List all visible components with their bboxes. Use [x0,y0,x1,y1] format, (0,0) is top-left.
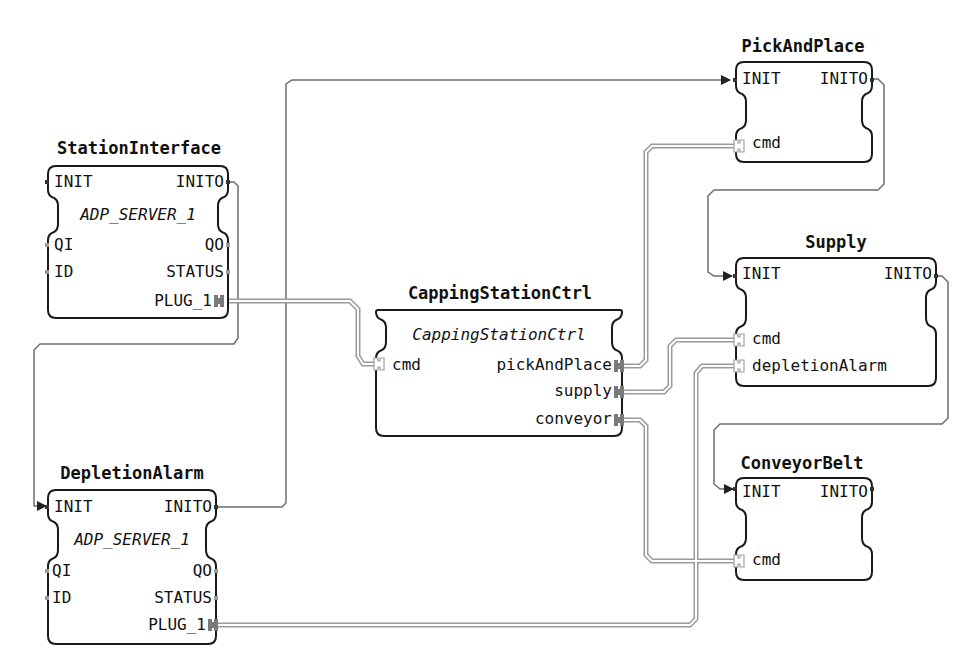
block-title: CappingStationCtrl [380,283,620,303]
stationinterface-inito-pin[interactable] [226,180,230,184]
block-title: StationInterface [44,138,234,158]
depletionalarm-id-pin[interactable] [45,596,49,600]
pickandplace-init-pin[interactable] [733,78,737,82]
event-input-label: INIT [742,265,781,283]
event-output-label: INITO [858,265,932,283]
event-input-label: INIT [54,173,93,191]
adapter-plug-label: supply [450,382,612,400]
block-title: DepletionAlarm [40,463,224,483]
data-output-label: STATUS [120,263,224,281]
stationinterface-qi-pin[interactable] [45,243,49,247]
block-title: ConveyorBelt [726,453,878,473]
data-input-label: ID [54,263,73,281]
depletionalarm-qo-pin[interactable] [214,569,218,573]
adapter-plug-label: PLUG_1 [114,616,206,634]
block-type-label: ADP_SERVER_1 [58,530,206,549]
data-output-label: QO [118,562,212,580]
adapter-socket-label: cmd [752,134,781,152]
event-output-label: INITO [794,483,868,501]
block-title: Supply [780,232,892,252]
data-input-label: ID [52,589,71,607]
depletionalarm-init-pin[interactable] [45,505,49,509]
data-input-label: QI [54,236,73,254]
pickandplace-inito-pin[interactable] [870,78,874,82]
adapter-wire-pickandplace-to-cmd[interactable] [622,146,738,366]
depletionalarm-inito-pin[interactable] [214,505,218,509]
depletionalarm-qi-pin[interactable] [45,569,49,573]
stationinterface-id-pin[interactable] [45,270,49,274]
data-output-label: QO [130,236,224,254]
supply-init-pin[interactable] [733,274,737,278]
block-type-label: ADP_SERVER_1 [58,205,218,224]
adapter-socket-label: cmd [392,356,421,374]
depletionalarm-status-pin[interactable] [214,596,218,600]
supply-inito-pin[interactable] [934,274,938,278]
event-input-label: INIT [742,483,781,501]
stationinterface-qo-pin[interactable] [226,243,230,247]
event-output-label: INITO [130,173,224,191]
adapter-socket-label: cmd [752,330,781,348]
block-type-label: CappingStationCtrl [386,325,612,344]
event-output-label: INITO [118,498,212,516]
adapter-plug-label: PLUG_1 [120,292,212,310]
event-output-label: INITO [794,70,868,88]
event-input-label: INIT [54,498,93,516]
data-output-label: STATUS [108,589,212,607]
adapter-socket-label: depletionAlarm [752,357,887,375]
adapter-wire-conveyor-to-cmd[interactable] [622,420,738,561]
adapter-plug-label: pickAndPlace [450,356,612,374]
adapter-socket-label: cmd [752,551,781,569]
conveyorbelt-init-pin[interactable] [733,487,737,491]
conveyorbelt-inito-pin[interactable] [870,487,874,491]
block-title: PickAndPlace [730,36,876,56]
event-input-label: INIT [742,70,781,88]
stationinterface-status-pin[interactable] [226,270,230,274]
stationinterface-init-pin[interactable] [45,180,49,184]
data-input-label: QI [52,562,71,580]
adapter-plug-label: conveyor [450,410,612,428]
adapter-wire-plug1-to-cmd[interactable] [222,301,376,364]
